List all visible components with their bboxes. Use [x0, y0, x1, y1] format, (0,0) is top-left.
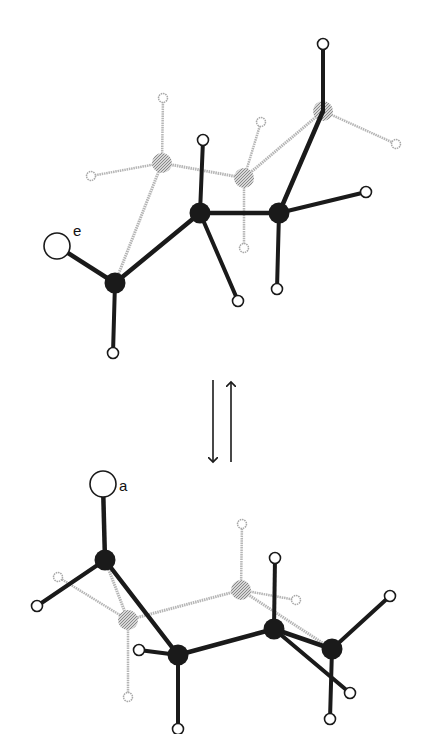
back-hydrogen-atom: [54, 573, 63, 582]
back-carbon-atom: [152, 153, 172, 173]
back-h-bond: [323, 111, 396, 144]
front-carbon-atom: [322, 639, 343, 660]
axial-conformer: a: [32, 471, 396, 734]
position-label: e: [73, 222, 81, 239]
back-layer: [87, 94, 401, 284]
front-layer: e: [44, 39, 372, 359]
h-bond: [200, 213, 238, 301]
hydrogen-atom: [345, 688, 356, 699]
hydrogen-atom: [318, 39, 329, 50]
h-bond: [277, 213, 279, 289]
hydrogen-atom: [361, 187, 372, 198]
equilibrium-arrows-icon: [213, 380, 231, 462]
h-bond: [274, 629, 350, 693]
hydrogen-atom: [272, 284, 283, 295]
cyclohexane-ring-flip-diagram: e a: [0, 0, 428, 734]
hydrogen-atom: [32, 601, 43, 612]
substituent-atom: [44, 233, 70, 259]
hydrogen-atom: [173, 724, 184, 734]
hydrogen-atom: [385, 591, 396, 602]
back-carbon-atom: [118, 610, 138, 630]
hydrogen-atom: [325, 714, 336, 725]
front-carbon-atom: [105, 273, 126, 294]
back-hydrogen-atom: [240, 244, 249, 253]
front-bond: [105, 560, 178, 655]
front-carbon-atom: [269, 203, 290, 224]
back-carbon-atom: [231, 580, 251, 600]
hydrogen-atom: [270, 553, 281, 564]
hydrogen-atom: [198, 135, 209, 146]
substituent-atom: [90, 471, 116, 497]
back-carbon-atom: [234, 168, 254, 188]
front-carbon-atom: [95, 550, 116, 571]
front-carbon-atom: [190, 203, 211, 224]
h-bond: [279, 192, 366, 213]
front-carbon-atom: [168, 645, 189, 666]
position-label: a: [119, 477, 128, 494]
front-layer: a: [32, 471, 396, 734]
back-hydrogen-atom: [257, 118, 266, 127]
back-hydrogen-atom: [124, 693, 133, 702]
hydrogen-atom: [233, 296, 244, 307]
hydrogen-atom: [134, 645, 145, 656]
front-bond: [115, 213, 200, 283]
front-bond: [178, 629, 274, 655]
h-bond: [113, 283, 115, 353]
back-hydrogen-atom: [292, 596, 301, 605]
equatorial-conformer: e: [44, 39, 401, 359]
front-carbon-atom: [264, 619, 285, 640]
front-bond: [279, 111, 323, 213]
h-bond: [274, 558, 275, 629]
back-hydrogen-atom: [238, 520, 247, 529]
h-bond: [332, 596, 390, 649]
back-layer: [54, 520, 333, 702]
hydrogen-atom: [108, 348, 119, 359]
back-hydrogen-atom: [159, 94, 168, 103]
h-bond: [200, 140, 203, 213]
back-hydrogen-atom: [87, 172, 96, 181]
back-hydrogen-atom: [392, 140, 401, 149]
h-bond: [330, 649, 332, 719]
back-h-bond: [91, 163, 162, 176]
